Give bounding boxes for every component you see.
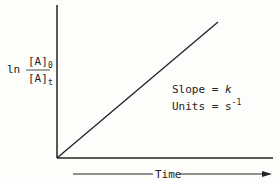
y-label-ln: ln [7,64,20,75]
units-annotation: Units = s-1 [172,99,241,112]
arrowhead-icon [262,171,272,177]
x-axis-label: Time [155,169,182,180]
chart-canvas [0,0,280,183]
y-label-numerator: [A]0 [28,56,53,70]
slope-annotation: Slope = k [172,84,232,95]
y-label-denominator: [A]t [28,73,53,87]
